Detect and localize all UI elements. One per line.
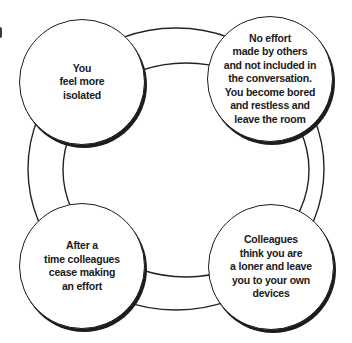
isolation-cycle-diagram: You feel more isolated No effort made by… — [0, 0, 352, 343]
node-label-no-effort-made-by-others: No effort made by others and not include… — [224, 32, 316, 127]
node-colleagues-cease-effort: After a time colleagues cease making an … — [19, 203, 145, 329]
node-no-effort-made-by-others: No effort made by others and not include… — [207, 16, 333, 142]
node-label-you-feel-more-isolated: You feel more isolated — [60, 62, 105, 103]
node-label-colleagues-think-loner: Colleagues think you are a loner and lea… — [230, 233, 312, 301]
node-label-colleagues-cease-effort: After a time colleagues cease making an … — [44, 239, 120, 293]
node-colleagues-think-loner: Colleagues think you are a loner and lea… — [208, 204, 334, 330]
node-you-feel-more-isolated: You feel more isolated — [19, 19, 145, 145]
